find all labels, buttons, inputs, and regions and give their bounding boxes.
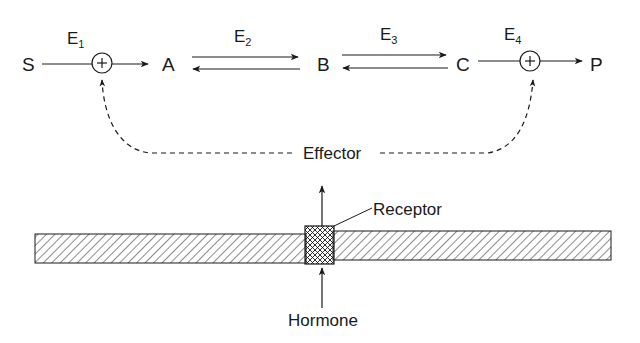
enzyme-e1-label: E1 [67,29,84,50]
node-b: B [317,54,330,75]
effector-label: Effector [303,144,362,163]
receptor-box [305,226,334,264]
enzyme-e3-step: E3 [342,25,448,68]
enzyme-e4-step: E4 [478,25,582,71]
cell-membrane [35,226,611,264]
node-s: S [22,54,35,75]
pathway-diagram: S A B C P E1 E2 E3 E4 Effector [0,0,640,343]
effector-feedback: Effector [102,80,533,163]
enzyme-e4-label: E4 [504,25,521,46]
node-c: C [456,54,470,75]
dashed-arrow-to-e1-icon [102,80,292,153]
enzyme-e2-step: E2 [192,27,300,69]
receptor-label: Receptor [373,200,442,219]
enzyme-e2-label: E2 [234,27,251,48]
hormone-label: Hormone [288,311,358,330]
receptor-leader-line [334,208,372,226]
node-a: A [162,54,175,75]
enzyme-e3-label: E3 [380,25,397,46]
enzyme-e1-step: E1 [42,29,148,73]
node-p: P [590,54,603,75]
dashed-arrow-to-e4-icon [380,80,533,153]
